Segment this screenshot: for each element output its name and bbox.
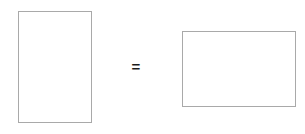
equals-sign: = bbox=[129, 56, 143, 76]
figure-canvas: = bbox=[0, 0, 305, 134]
right-rectangle bbox=[182, 31, 296, 107]
left-rectangle bbox=[18, 11, 92, 123]
